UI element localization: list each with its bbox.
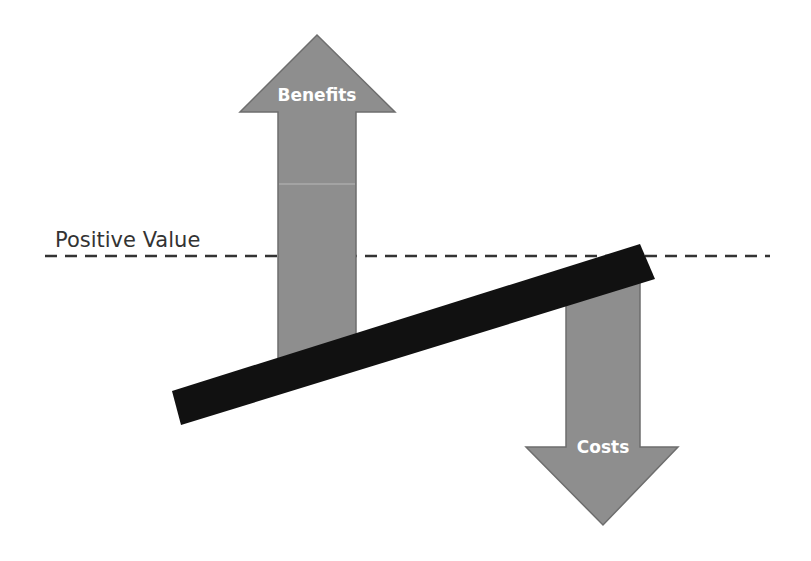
benefits-arrow bbox=[240, 35, 395, 360]
costs-label: Costs bbox=[577, 437, 630, 457]
positive-value-label: Positive Value bbox=[55, 228, 200, 252]
cost-benefit-diagram: Positive Value Benefits Costs bbox=[0, 0, 811, 561]
benefits-label: Benefits bbox=[278, 85, 357, 105]
